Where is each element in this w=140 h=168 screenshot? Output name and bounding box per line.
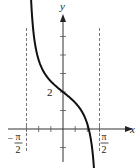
function-graph: x y 2 − π 2 π 2	[0, 0, 140, 168]
minus-sign: −	[8, 133, 14, 144]
denominator-2: 2	[102, 144, 107, 155]
pi-numerator: π	[102, 131, 107, 142]
denominator-2: 2	[16, 144, 21, 155]
y-axis-arrow-icon	[60, 14, 66, 22]
pi-numerator: π	[16, 131, 21, 142]
y-tick-label-2: 2	[47, 86, 53, 98]
x-tick-label-neg-pi-over-2: − π 2	[8, 131, 23, 155]
y-axis-label: y	[59, 0, 65, 12]
x-tick-label-pi-over-2: π 2	[101, 131, 109, 155]
x-axis-label: x	[129, 123, 135, 135]
